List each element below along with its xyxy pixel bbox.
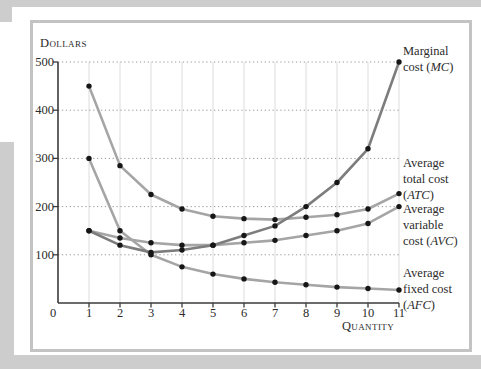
- data-point-afc: [117, 228, 122, 233]
- data-point-atc: [396, 191, 401, 196]
- data-point-afc: [86, 156, 91, 161]
- scanned-page: Dollars 100200300400500 01234567891011 Q…: [0, 0, 481, 369]
- y-tick-label: 400: [23, 103, 54, 117]
- data-point-avc: [303, 233, 308, 238]
- data-point-mc: [210, 242, 215, 247]
- chart-area: Dollars 100200300400500 01234567891011 Q…: [33, 23, 469, 349]
- data-point-afc: [179, 264, 184, 269]
- x-tick-label: 9: [325, 306, 349, 320]
- x-axis-title: Quantity: [333, 319, 403, 334]
- data-point-atc: [241, 216, 246, 221]
- data-point-atc: [303, 215, 308, 220]
- data-point-mc: [148, 250, 153, 255]
- page-edge-top: [0, 0, 481, 7]
- x-tick-label: 6: [232, 306, 256, 320]
- data-point-mc: [365, 146, 370, 151]
- label-afc: Averagefixed cost(AFC): [403, 265, 469, 313]
- x-tick-label: 10: [356, 306, 380, 320]
- label-atc: Averagetotal cost(ATC): [403, 155, 469, 203]
- data-point-afc: [210, 271, 215, 276]
- data-point-atc: [365, 206, 370, 211]
- data-point-avc: [241, 240, 246, 245]
- page-edge-corner: [0, 7, 12, 22]
- x-tick-label: 4: [170, 306, 194, 320]
- data-point-afc: [272, 280, 277, 285]
- data-point-mc: [303, 204, 308, 209]
- data-point-afc: [303, 282, 308, 287]
- x-tick-label: 5: [201, 306, 225, 320]
- data-point-atc: [179, 206, 184, 211]
- x-tick-label: 2: [108, 306, 132, 320]
- figure-panel: Dollars 100200300400500 01234567891011 Q…: [30, 20, 472, 352]
- data-point-afc: [396, 287, 401, 292]
- data-point-avc: [396, 204, 401, 209]
- data-point-atc: [86, 83, 91, 88]
- data-point-atc: [117, 163, 122, 168]
- data-point-avc: [365, 221, 370, 226]
- y-tick-label: 300: [23, 151, 54, 165]
- label-avc: Averagevariablecost (AVC): [403, 201, 469, 249]
- data-point-mc: [117, 242, 122, 247]
- page-edge-bottom: [0, 355, 481, 369]
- data-point-avc: [334, 228, 339, 233]
- data-point-mc: [86, 228, 91, 233]
- data-point-afc: [365, 286, 370, 291]
- x-tick-label: 3: [139, 306, 163, 320]
- data-point-mc: [334, 180, 339, 185]
- data-point-atc: [272, 217, 277, 222]
- data-point-atc: [334, 212, 339, 217]
- x-tick-label: 7: [263, 306, 287, 320]
- data-point-avc: [117, 235, 122, 240]
- data-point-atc: [148, 192, 153, 197]
- x-tick-label: 1: [77, 306, 101, 320]
- y-tick-label: 500: [23, 55, 54, 69]
- data-point-avc: [272, 238, 277, 243]
- data-point-mc: [241, 233, 246, 238]
- data-point-afc: [334, 284, 339, 289]
- y-tick-label: 200: [23, 200, 54, 214]
- data-point-mc: [272, 223, 277, 228]
- data-point-afc: [241, 276, 246, 281]
- y-tick-label: 100: [23, 248, 54, 262]
- x-tick-label: 8: [294, 306, 318, 320]
- x-tick-label: 0: [41, 306, 65, 320]
- data-point-avc: [148, 240, 153, 245]
- data-point-mc: [396, 59, 401, 64]
- page-edge-left: [0, 142, 14, 369]
- label-mc: Marginalcost (MC): [403, 43, 469, 75]
- data-point-mc: [179, 247, 184, 252]
- data-point-avc: [179, 242, 184, 247]
- data-point-atc: [210, 214, 215, 219]
